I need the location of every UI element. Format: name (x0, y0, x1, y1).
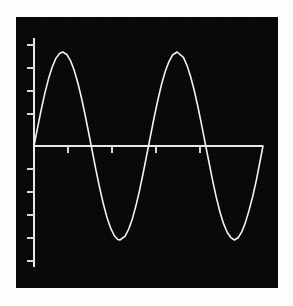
plot-svg (16, 17, 278, 288)
plot-panel (16, 17, 278, 288)
x-axis-ticks (68, 146, 200, 153)
y-axis-ticks (27, 45, 34, 261)
figure-canvas (0, 0, 293, 306)
